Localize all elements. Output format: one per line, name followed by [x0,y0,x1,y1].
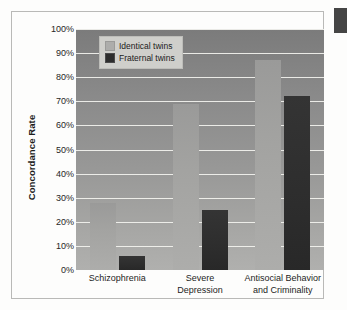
gridline-100 [76,29,324,30]
y-axis-tick-50: 50% [56,145,74,155]
x-axis-label-3: Antisocial Behaviorand Criminality [230,273,335,296]
figure-container: Concordance Rate 0%10%20%30%40%50%60%70%… [0,0,347,310]
plot-area: Identical twinsFraternal twins [76,29,324,270]
y-axis-tick-80: 80% [56,72,74,82]
bar-identical-twins-1 [90,203,116,270]
y-axis-tick-90: 90% [56,48,74,58]
bar-identical-twins-2 [173,104,199,270]
bar-fraternal-twins-2 [202,210,228,270]
y-axis-tick-70: 70% [56,96,74,106]
gridline-80 [76,77,324,78]
legend-item-2: Fraternal twins [105,52,175,64]
y-axis-tick-20: 20% [56,217,74,227]
chart-frame: Concordance Rate 0%10%20%30%40%50%60%70%… [11,11,324,299]
x-axis-label-3-line-1: Antisocial Behavior [230,273,335,285]
bar-identical-twins-3 [255,60,281,270]
y-axis-tick-100: 100% [51,24,74,34]
y-axis-tick-10: 10% [56,241,74,251]
bar-fraternal-twins-3 [284,96,310,270]
x-axis-label-3-line-2: and Criminality [230,285,335,297]
y-axis-tick-40: 40% [56,169,74,179]
legend-item-1: Identical twins [105,40,175,52]
y-axis-tick-60: 60% [56,120,74,130]
legend-swatch-light [105,41,115,51]
legend-label-1: Identical twins [119,41,172,51]
legend-label-2: Fraternal twins [119,53,175,63]
y-axis-tick-labels: 0%10%20%30%40%50%60%70%80%90%100% [38,29,74,270]
bar-fraternal-twins-1 [119,256,145,270]
legend-swatch-dark [105,53,115,63]
x-axis-category-labels: SchizophreniaSevereDepressionAntisocial … [76,273,324,307]
y-axis-tick-30: 30% [56,193,74,203]
page-edge-notch [334,8,347,33]
y-axis-title-label: Concordance Rate [27,114,38,200]
chart-legend: Identical twinsFraternal twins [99,36,183,69]
